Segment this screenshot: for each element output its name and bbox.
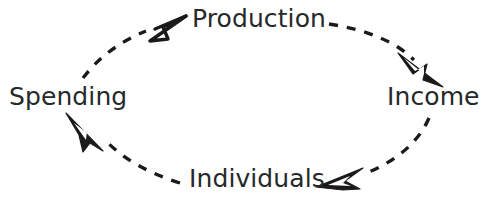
connector-individuals-to-spending	[107, 142, 180, 183]
connector-production-to-income	[329, 24, 414, 60]
node-label-income: Income	[387, 84, 480, 109]
node-label-production: Production	[192, 6, 326, 31]
circular-flow-diagram: Production Income Individuals Spending	[0, 0, 482, 208]
node-label-individuals: Individuals	[189, 166, 325, 191]
connector-spending-to-production	[83, 31, 146, 78]
connector-income-to-individuals	[369, 118, 429, 172]
node-label-spending: Spending	[9, 84, 127, 109]
